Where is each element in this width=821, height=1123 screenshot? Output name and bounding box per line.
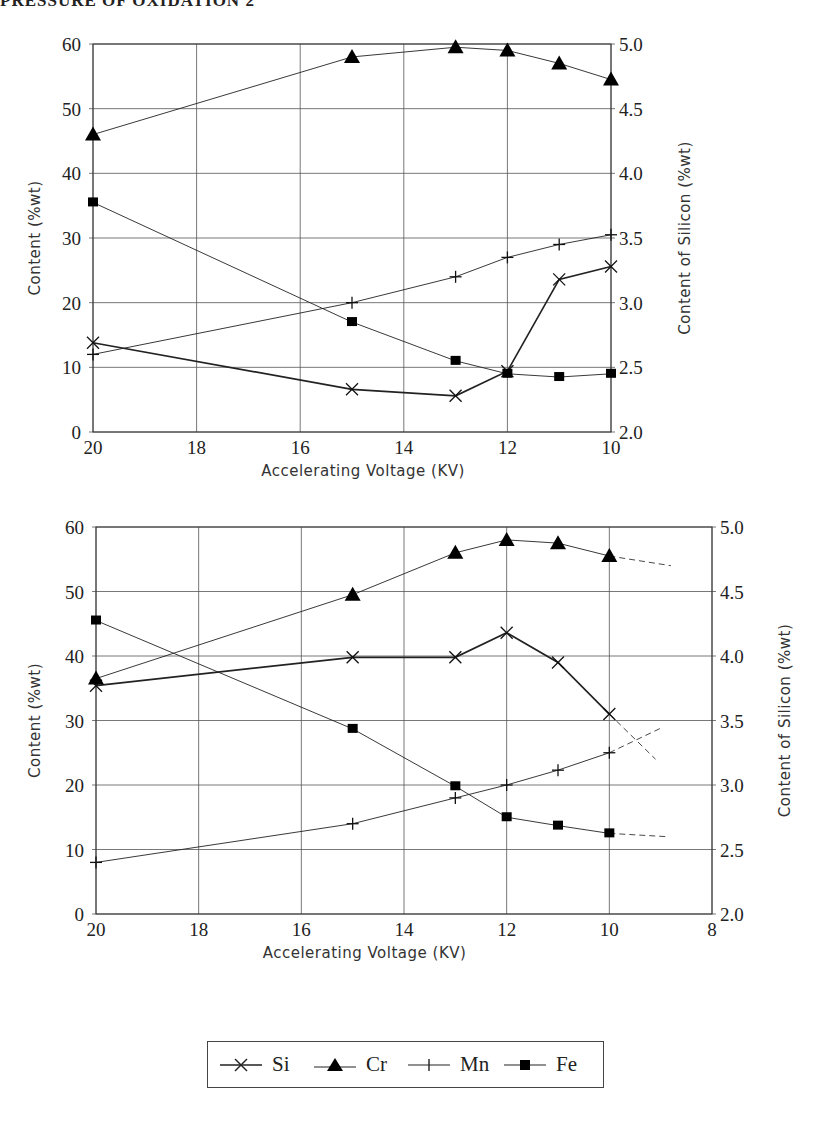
x-tick-label: 14 xyxy=(394,437,414,458)
x-tick-label: 20 xyxy=(87,919,106,940)
x-mark-icon xyxy=(552,656,564,668)
filled-triangle-icon xyxy=(499,42,515,56)
series-si xyxy=(90,627,656,759)
filled-triangle-icon xyxy=(448,39,464,53)
series-mn xyxy=(90,728,661,868)
x-tick-label: 12 xyxy=(498,437,517,458)
y2-tick-label: 4.5 xyxy=(720,582,744,603)
plus-mark-icon xyxy=(87,348,99,360)
filled-square-icon xyxy=(553,821,563,830)
filled-square-icon xyxy=(88,197,98,206)
plus-mark-icon xyxy=(552,764,564,776)
x-tick-label: 18 xyxy=(189,919,208,940)
y-tick-label: 50 xyxy=(65,582,84,603)
y-tick-label: 0 xyxy=(75,904,85,925)
plus-mark-icon xyxy=(449,792,461,804)
y-tick-label: 40 xyxy=(62,163,81,184)
filled-square-icon xyxy=(450,781,460,790)
plus-mark-icon xyxy=(605,229,617,241)
plus-mark-icon xyxy=(90,856,102,868)
plus-mark-icon xyxy=(347,818,359,830)
y-tick-label: 30 xyxy=(62,228,81,249)
y2-tick-label: 5.0 xyxy=(619,34,643,55)
y2-tick-label: 2.5 xyxy=(619,357,643,378)
y-axis-title: Content (%wt) xyxy=(26,180,44,295)
legend-item-cr: Cr xyxy=(312,1042,387,1087)
filled-square-icon xyxy=(604,828,614,837)
filled-triangle-icon xyxy=(550,535,566,549)
y-tick-label: 20 xyxy=(65,775,84,796)
filled-triangle-icon xyxy=(344,49,360,63)
filled-square-icon xyxy=(348,724,358,733)
y-tick-label: 60 xyxy=(62,34,81,55)
series-mn xyxy=(87,229,617,361)
charts-canvas: 20181614121001020304050602.02.53.03.54.0… xyxy=(0,0,821,1123)
plus-mark-icon xyxy=(553,238,565,250)
filled-square-icon xyxy=(347,317,357,326)
x-tick-label: 8 xyxy=(707,919,717,940)
filled-square-icon xyxy=(91,616,101,625)
x-tick-label: 16 xyxy=(291,437,310,458)
filled-square-icon xyxy=(554,372,564,381)
filled-triangle-icon xyxy=(312,1055,358,1075)
y2-tick-label: 3.5 xyxy=(619,228,643,249)
x-axis-title: Accelerating Voltage (KV) xyxy=(263,944,467,962)
y2-tick-label: 2.0 xyxy=(619,422,643,443)
y2-tick-label: 3.0 xyxy=(619,293,643,314)
filled-square-icon xyxy=(502,812,512,821)
y-tick-label: 10 xyxy=(62,357,81,378)
plus-mark-icon xyxy=(603,747,615,759)
plus-mark-icon xyxy=(450,271,462,283)
legend-label: Fe xyxy=(556,1052,577,1077)
y2-tick-label: 4.0 xyxy=(720,646,744,667)
legend-label: Si xyxy=(272,1052,290,1077)
chart-1: 20181614121001020304050602.02.53.03.54.0… xyxy=(26,34,694,480)
x-tick-label: 10 xyxy=(602,437,621,458)
y2-tick-label: 4.5 xyxy=(619,99,643,120)
plus-mark-icon xyxy=(501,251,513,263)
y-tick-label: 60 xyxy=(65,517,84,538)
plus-mark-icon xyxy=(346,297,358,309)
series-cr xyxy=(88,532,671,685)
x-mark-icon xyxy=(553,273,565,285)
legend-item-si: Si xyxy=(218,1042,290,1087)
y2-axis-title: Content of Silicon (%wt) xyxy=(776,624,794,817)
y-tick-label: 0 xyxy=(72,422,82,443)
y2-tick-label: 5.0 xyxy=(720,517,744,538)
x-tick-label: 12 xyxy=(497,919,516,940)
y2-axis-title: Content of Silicon (%wt) xyxy=(676,141,694,334)
legend-item-mn: Mn xyxy=(406,1042,489,1087)
y-tick-label: 20 xyxy=(62,293,81,314)
x-mark-icon xyxy=(218,1055,264,1075)
series-cr xyxy=(85,39,619,140)
filled-square-icon xyxy=(502,369,512,378)
filled-square-icon xyxy=(606,369,616,378)
plus-mark-icon xyxy=(501,779,513,791)
series-si xyxy=(87,260,617,401)
legend-label: Cr xyxy=(366,1052,387,1077)
filled-triangle-icon xyxy=(603,72,619,86)
filled-triangle-icon xyxy=(85,127,101,141)
filled-triangle-icon xyxy=(345,587,361,601)
y2-tick-label: 2.5 xyxy=(720,840,744,861)
legend-item-fe: Fe xyxy=(502,1042,577,1087)
chart-2: 201816141210801020304050602.02.53.03.54.… xyxy=(26,517,794,962)
y-tick-label: 40 xyxy=(65,646,84,667)
filled-triangle-icon xyxy=(88,671,104,685)
legend: Si Cr Mn Fe xyxy=(207,1041,604,1088)
y-tick-label: 30 xyxy=(65,711,84,732)
y2-tick-label: 2.0 xyxy=(720,904,744,925)
legend-label: Mn xyxy=(460,1052,489,1077)
series-fe xyxy=(91,616,666,838)
y2-tick-label: 3.0 xyxy=(720,775,744,796)
y-axis-title: Content (%wt) xyxy=(26,663,44,778)
x-tick-label: 10 xyxy=(600,919,619,940)
y-tick-label: 50 xyxy=(62,99,81,120)
x-tick-label: 18 xyxy=(187,437,206,458)
y2-tick-label: 4.0 xyxy=(619,163,643,184)
filled-triangle-icon xyxy=(499,532,515,546)
filled-square-icon xyxy=(451,356,461,365)
plus-mark-icon xyxy=(406,1055,452,1075)
series-fe xyxy=(88,197,616,381)
y2-tick-label: 3.5 xyxy=(720,711,744,732)
